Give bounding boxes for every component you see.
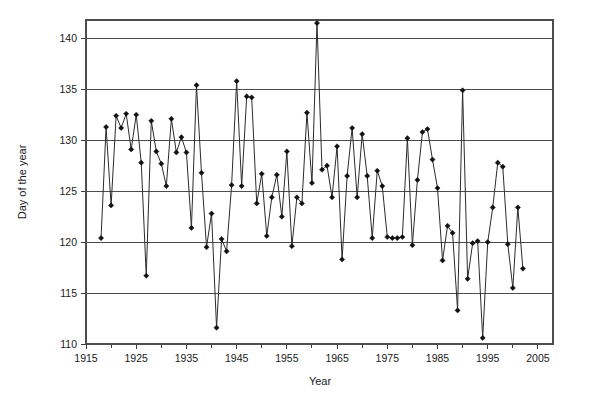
x-axis-title: Year xyxy=(309,375,332,387)
data-point xyxy=(460,88,465,93)
data-point xyxy=(390,235,395,240)
data-point xyxy=(289,244,294,249)
xtick-label: 1935 xyxy=(175,352,199,364)
data-point xyxy=(475,238,480,243)
data-point xyxy=(274,172,279,177)
data-point xyxy=(244,94,249,99)
xtick-label: 1995 xyxy=(476,352,500,364)
data-point xyxy=(209,211,214,216)
data-series xyxy=(98,20,525,340)
data-point xyxy=(490,205,495,210)
data-point xyxy=(465,276,470,281)
data-point xyxy=(239,183,244,188)
ytick-label: 120 xyxy=(59,236,77,248)
data-point xyxy=(249,95,254,100)
data-point xyxy=(485,240,490,245)
data-point xyxy=(410,243,415,248)
data-point xyxy=(345,173,350,178)
data-point xyxy=(395,235,400,240)
xtick-label: 1915 xyxy=(74,352,98,364)
y-axis-tick-labels: 110115120125130135140 xyxy=(59,32,77,350)
xtick-label: 2005 xyxy=(526,352,550,364)
data-point xyxy=(144,273,149,278)
data-point xyxy=(329,195,334,200)
data-point xyxy=(184,150,189,155)
data-point xyxy=(365,173,370,178)
gridlines xyxy=(86,38,553,293)
data-point xyxy=(109,203,114,208)
data-point xyxy=(103,124,108,129)
data-point xyxy=(159,161,164,166)
data-point xyxy=(370,235,375,240)
data-point xyxy=(279,214,284,219)
data-point xyxy=(435,186,440,191)
data-point xyxy=(520,266,525,271)
data-point xyxy=(400,234,405,239)
data-point xyxy=(314,20,319,25)
ytick-label: 130 xyxy=(59,134,77,146)
data-point xyxy=(124,111,129,116)
data-point xyxy=(360,132,365,137)
data-point xyxy=(229,182,234,187)
data-point xyxy=(189,225,194,230)
axis-tickmarks xyxy=(81,38,538,349)
data-point xyxy=(119,125,124,130)
data-point xyxy=(309,180,314,185)
data-point xyxy=(340,257,345,262)
data-point xyxy=(214,325,219,330)
data-point xyxy=(154,149,159,154)
data-point xyxy=(470,241,475,246)
ytick-label: 135 xyxy=(59,83,77,95)
data-point xyxy=(164,183,169,188)
ytick-label: 115 xyxy=(60,287,77,299)
data-point xyxy=(480,335,485,340)
data-point xyxy=(430,157,435,162)
plot-frame xyxy=(86,20,553,344)
data-point xyxy=(385,234,390,239)
data-point xyxy=(169,116,174,121)
data-point xyxy=(420,129,425,134)
data-point xyxy=(380,183,385,188)
data-point xyxy=(375,168,380,173)
data-point xyxy=(98,235,103,240)
xtick-label: 1925 xyxy=(125,352,149,364)
data-point xyxy=(510,285,515,290)
data-point xyxy=(415,177,420,182)
data-point xyxy=(194,83,199,88)
xtick-label: 1985 xyxy=(426,352,450,364)
data-point xyxy=(304,110,309,115)
x-axis-tick-labels: 1915192519351945195519651975198519952005 xyxy=(74,352,549,364)
xtick-label: 1955 xyxy=(275,352,299,364)
ytick-label: 110 xyxy=(60,338,77,350)
data-point xyxy=(114,113,119,118)
data-point xyxy=(259,171,264,176)
data-point xyxy=(199,170,204,175)
data-point xyxy=(179,135,184,140)
ytick-label: 125 xyxy=(59,185,77,197)
data-point xyxy=(129,147,134,152)
data-point xyxy=(254,201,259,206)
data-point xyxy=(269,195,274,200)
data-point xyxy=(224,249,229,254)
data-point xyxy=(350,125,355,130)
data-point xyxy=(334,144,339,149)
data-point xyxy=(234,79,239,84)
data-point xyxy=(284,149,289,154)
data-point xyxy=(355,195,360,200)
xtick-label: 1945 xyxy=(225,352,249,364)
data-point xyxy=(174,150,179,155)
data-point xyxy=(515,205,520,210)
data-point xyxy=(134,112,139,117)
data-point xyxy=(264,233,269,238)
data-point xyxy=(440,258,445,263)
data-point xyxy=(149,118,154,123)
data-point xyxy=(455,308,460,313)
data-point xyxy=(204,245,209,250)
data-point xyxy=(139,160,144,165)
line-chart: 110115120125130135140 191519251935194519… xyxy=(0,0,590,403)
xtick-label: 1965 xyxy=(325,352,349,364)
data-point xyxy=(219,236,224,241)
chart-figure: 110115120125130135140 191519251935194519… xyxy=(0,0,590,403)
ytick-label: 140 xyxy=(59,32,77,44)
xtick-label: 1975 xyxy=(376,352,400,364)
